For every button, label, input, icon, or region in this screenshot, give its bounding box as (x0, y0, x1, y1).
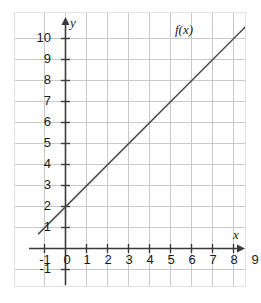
x-tick-label-2: 2 (99, 252, 117, 267)
x-axis-label: x (233, 227, 239, 243)
plot-frame: 10 9 8 7 6 5 4 3 2 1 -1 -1 0 1 2 3 4 5 6… (14, 12, 246, 287)
y-tick-label-2: 2 (21, 198, 51, 213)
y-axis (62, 17, 70, 285)
coordinate-graph-figure: 10 9 8 7 6 5 4 3 2 1 -1 -1 0 1 2 3 4 5 6… (0, 0, 261, 303)
x-tick-label-0: 0 (58, 252, 76, 267)
x-tick-label-1: 1 (78, 252, 96, 267)
y-tick-label-3: 3 (21, 177, 51, 192)
y-tick-label-9: 9 (21, 51, 51, 66)
y-tick-label-6: 6 (21, 114, 51, 129)
x-tick-label-4: 4 (141, 252, 159, 267)
function-line-fx (38, 13, 245, 234)
y-tick-label-8: 8 (21, 72, 51, 87)
x-tick-label-neg1: -1 (34, 252, 56, 267)
x-tick-label-3: 3 (120, 252, 138, 267)
y-tick-label-5: 5 (21, 135, 51, 150)
x-tick-label-9: 9 (246, 252, 261, 267)
x-tick-label-6: 6 (183, 252, 201, 267)
vertical-gridlines (45, 13, 234, 286)
x-tick-label-8: 8 (225, 252, 243, 267)
x-tick-label-7: 7 (204, 252, 222, 267)
y-tick-label-1: 1 (21, 219, 51, 234)
function-label-fx: f(x) (175, 22, 193, 38)
y-tick-label-7: 7 (21, 93, 51, 108)
x-tick-label-5: 5 (162, 252, 180, 267)
y-axis-label: y (70, 15, 76, 31)
y-tick-label-10: 10 (21, 30, 51, 45)
y-tick-label-4: 4 (21, 156, 51, 171)
